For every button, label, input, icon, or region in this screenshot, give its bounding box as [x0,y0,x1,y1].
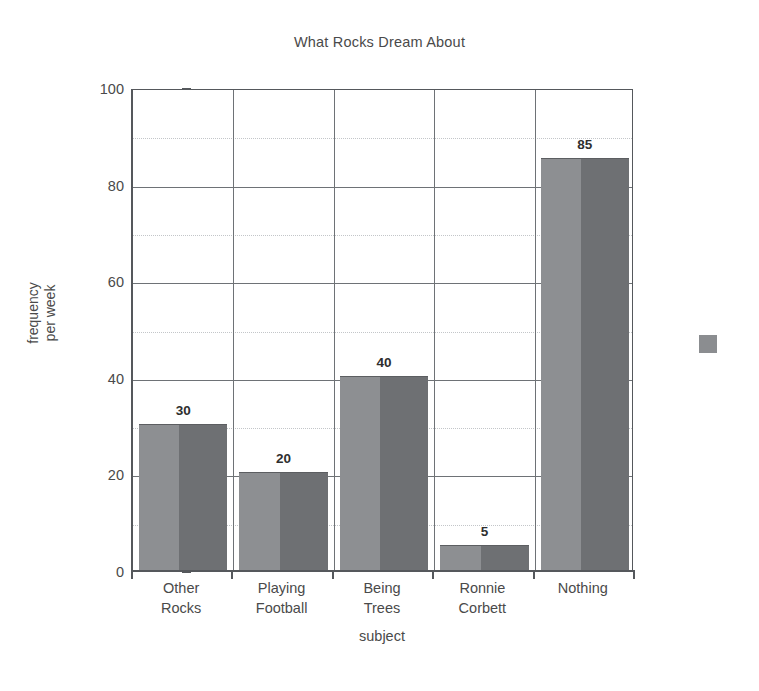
y-axis-title-line-2: per week [42,238,59,388]
x-axis-category-label: PlayingFootball [231,578,331,618]
bar-chart-figure: What Rocks Dream About frequency per wee… [0,0,759,691]
x-axis-category-label-line: Playing [231,578,331,598]
y-axis-tick-label: 20 [64,467,124,483]
y-axis-tick-labels: 020406080100 [58,89,124,572]
bar-value-label: 85 [535,137,635,152]
x-axis-category-label: BeingTrees [332,578,432,618]
bar-slot: 30 [133,90,233,570]
bar-value-label: 5 [434,524,534,539]
chart-title: What Rocks Dream About [0,34,759,50]
x-axis-category-label-line: Ronnie [432,578,532,598]
bar-value-label: 40 [334,355,434,370]
x-axis-tick-mark [131,570,133,579]
bar-slot: 85 [535,90,635,570]
bar[interactable] [340,376,428,570]
x-axis-category-labels: OtherRocksPlayingFootballBeingTreesRonni… [131,578,633,626]
x-axis-tick-mark [533,570,535,579]
x-axis-category-label-line: Other [131,578,231,598]
legend-swatch-icon [699,335,717,353]
x-axis-tick-mark [633,570,635,579]
x-axis-category-label: OtherRocks [131,578,231,618]
y-axis-tick-label: 100 [64,81,124,97]
bar[interactable] [440,545,528,570]
bar-slot: 40 [334,90,434,570]
y-axis-tick-label: 0 [64,564,124,580]
bar[interactable] [239,472,327,570]
y-axis-tick-label: 60 [64,274,124,290]
x-axis-category-label-line: Corbett [432,598,532,618]
bar-slot: 20 [233,90,333,570]
x-axis-tick-mark [332,570,334,579]
x-axis-category-label: Nothing [533,578,633,598]
x-axis-category-label-line: Nothing [533,578,633,598]
bar[interactable] [541,158,629,570]
y-axis-tick-label: 80 [64,178,124,194]
x-axis-title: subject [131,628,633,644]
x-axis-category-label-line: Rocks [131,598,231,618]
y-axis-title: frequency per week [25,238,59,388]
x-axis-category-label-line: Being [332,578,432,598]
x-axis-category-label: RonnieCorbett [432,578,532,618]
bar-slot: 5 [434,90,534,570]
plot-area: 302040585 [131,89,633,572]
x-axis-category-label-line: Trees [332,598,432,618]
y-axis-tick-label: 40 [64,371,124,387]
bar-value-label: 30 [133,403,233,418]
bar-value-label: 20 [233,451,333,466]
x-axis-tick-mark [231,570,233,579]
x-axis-tick-mark [432,570,434,579]
y-axis-title-line-1: frequency [25,238,42,388]
x-axis-category-label-line: Football [231,598,331,618]
bar[interactable] [139,424,227,570]
